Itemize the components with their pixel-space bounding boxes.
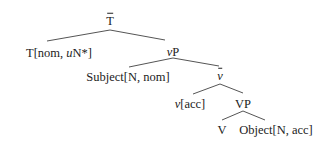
syntax-tree-diagram: T T[nom, uN*] vP Subject[N, nom] v v[acc… bbox=[0, 0, 321, 145]
node-object: Object[N, acc] bbox=[239, 124, 313, 137]
t-head-suffix: N*] bbox=[73, 46, 92, 60]
node-t-bar: T bbox=[106, 15, 114, 28]
edge-vbar-vpbig bbox=[220, 84, 243, 93]
v-head-features: [acc] bbox=[180, 97, 205, 111]
node-subject: Subject[N, nom] bbox=[86, 71, 169, 84]
little-vp-p: P bbox=[172, 45, 179, 59]
edge-vpbig-object bbox=[243, 111, 265, 120]
subject-label: Subject[N, nom] bbox=[86, 70, 169, 84]
node-v-head: v[acc] bbox=[175, 98, 206, 111]
object-label: Object[N, acc] bbox=[239, 123, 313, 137]
node-big-vp: VP bbox=[235, 98, 251, 111]
edge-tbar-thead bbox=[47, 30, 110, 41]
node-v-bar: v bbox=[217, 70, 223, 83]
node-little-vp: vP bbox=[167, 46, 180, 59]
edge-vp-vbar bbox=[173, 58, 219, 66]
t-bar-label: T bbox=[106, 15, 114, 28]
v-bar-label: v bbox=[217, 70, 223, 83]
edge-vbar-vhead bbox=[193, 84, 220, 94]
edge-tbar-vp bbox=[110, 30, 165, 40]
edge-vp-subject bbox=[129, 58, 173, 67]
big-vp-label: VP bbox=[235, 97, 251, 111]
node-t-head: T[nom, uN*] bbox=[26, 47, 92, 60]
edge-vpbig-verb bbox=[222, 111, 243, 120]
t-head-prefix: T[nom, bbox=[26, 46, 66, 60]
verb-label: V bbox=[217, 123, 226, 137]
node-verb: V bbox=[217, 124, 226, 137]
